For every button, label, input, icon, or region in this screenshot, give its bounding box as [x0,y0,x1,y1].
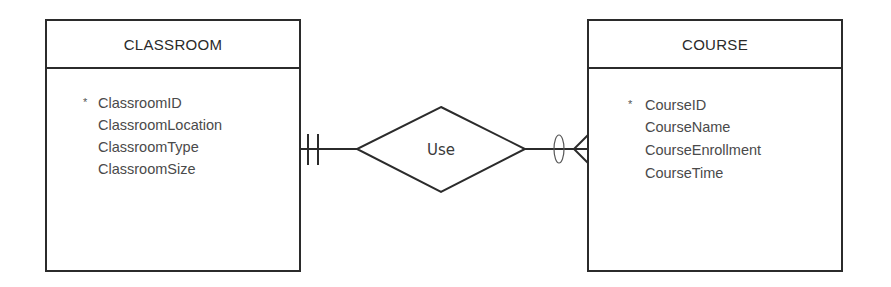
entity-course[interactable]: COURSE * CourseID CourseName CourseEnrol… [588,20,842,271]
primary-key-marker: * [628,98,633,110]
attribute-course-enrollment: CourseEnrollment [645,142,761,158]
entity-classroom-title: CLASSROOM [124,36,223,53]
entity-course-title: COURSE [682,36,748,53]
attribute-course-name: CourseName [645,119,730,135]
attribute-classroom-id: ClassroomID [98,95,182,111]
attribute-course-id: CourseID [645,97,706,113]
entity-classroom[interactable]: CLASSROOM * ClassroomID ClassroomLocatio… [46,20,300,271]
attribute-classroom-type: ClassroomType [98,139,199,155]
relationship-label: Use [427,141,455,159]
primary-key-marker: * [83,96,88,108]
relationship-use[interactable]: Use [357,107,525,192]
attribute-course-time: CourseTime [645,165,723,181]
er-diagram: CLASSROOM * ClassroomID ClassroomLocatio… [0,0,891,287]
attribute-classroom-location: ClassroomLocation [98,117,222,133]
attribute-classroom-size: ClassroomSize [98,161,196,177]
